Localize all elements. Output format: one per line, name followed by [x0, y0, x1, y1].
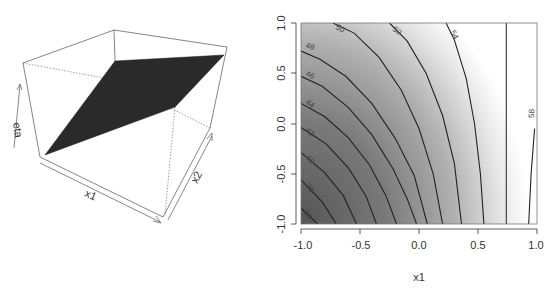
y-axis: [291, 23, 296, 224]
x-tick-label: 0.0: [411, 239, 426, 251]
x-tick-label: 1.0: [528, 239, 543, 251]
axis-label-x2: x2: [188, 169, 204, 185]
y-tick-label: 0.0: [275, 116, 287, 131]
x-tick-labels: -1.0 -0.5 0.0 0.5 1.0: [294, 239, 544, 251]
axis-label-x1: x1: [83, 187, 99, 203]
x-axis: [301, 229, 537, 234]
eta-surface: [45, 55, 224, 155]
contour-plot: 50 52 54 48 46 44 42 40 38 36 58 -1.0 -0…: [240, 0, 558, 294]
y-tick-labels: 1.0 0.5 0.0 -0.5 -1.0: [275, 15, 287, 233]
x-axis-title: x1: [413, 271, 425, 283]
y-tick-label: 0.5: [275, 65, 287, 80]
y-tick-label: 1.0: [275, 15, 287, 30]
perspective-surface-plot: eta x1 x2: [0, 0, 260, 260]
contour-label-58: 58: [527, 108, 536, 118]
y-tick-label: -0.5: [275, 165, 287, 184]
x-tick-label: -1.0: [294, 239, 313, 251]
x-tick-label: -0.5: [352, 239, 371, 251]
y-tick-label: -1.0: [275, 215, 287, 234]
x-tick-label: 0.5: [470, 239, 485, 251]
axis-label-eta: eta: [11, 122, 25, 140]
